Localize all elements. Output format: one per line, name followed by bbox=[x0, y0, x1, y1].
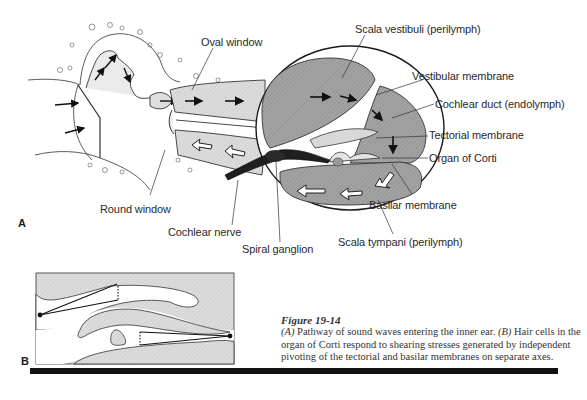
caption-body: (A) Pathway of sound waves entering the … bbox=[281, 326, 581, 362]
round-window bbox=[169, 110, 174, 134]
label-cochlear-duct: Cochlear duct (endolymph) bbox=[435, 98, 565, 110]
panel-a-letter: A bbox=[18, 217, 26, 229]
tympanic-membrane bbox=[78, 85, 100, 158]
label-scala-vestibuli: Scala vestibuli (perilymph) bbox=[355, 23, 481, 35]
ossicle-chain bbox=[86, 51, 150, 99]
spiral-ganglion bbox=[265, 150, 285, 162]
basilar-pivot-point bbox=[228, 334, 233, 339]
label-spiral-ganglion: Spiral ganglion bbox=[242, 243, 313, 255]
label-oval-window: Oval window bbox=[201, 36, 262, 48]
cochlear-partition-line bbox=[176, 120, 265, 128]
tectorial-pivot-point bbox=[38, 313, 43, 318]
label-vestibular-membrane: Vestibular membrane bbox=[412, 70, 514, 82]
caption-text-a: Pathway of sound waves entering the inne… bbox=[294, 326, 498, 337]
label-organ-of-corti: Organ of Corti bbox=[429, 152, 497, 164]
figure-caption: Figure 19-14 (A) Pathway of sound waves … bbox=[281, 314, 581, 364]
scala-vestibuli-tube bbox=[170, 80, 265, 122]
label-cochlear-nerve: Cochlear nerve bbox=[168, 226, 241, 238]
label-scala-tympani: Scala tympani (perilymph) bbox=[338, 236, 463, 248]
middle-ear-lower-contour bbox=[35, 152, 150, 190]
panel-b-letter: B bbox=[21, 355, 29, 367]
caption-title: Figure 19-14 bbox=[281, 314, 581, 326]
label-round-window: Round window bbox=[100, 203, 171, 215]
label-tectorial-membrane: Tectorial membrane bbox=[429, 129, 524, 141]
inner-hair-cell bbox=[333, 158, 343, 166]
ear-canal-outline bbox=[74, 85, 92, 160]
caption-marker-b: (B) bbox=[498, 326, 511, 337]
page-divider-rule bbox=[30, 368, 558, 374]
caption-marker-a: (A) bbox=[281, 326, 294, 337]
figure-page: Oval window Round window Cochlear nerve … bbox=[0, 0, 587, 400]
label-basilar-membrane: Basilar membrane bbox=[369, 199, 457, 211]
